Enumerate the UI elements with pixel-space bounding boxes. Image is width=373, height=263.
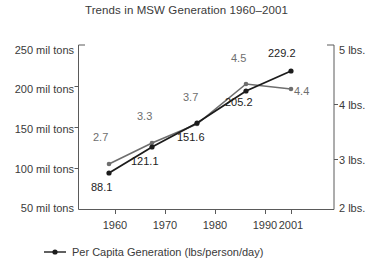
data-label-tons-1960: 88.1 xyxy=(91,181,112,193)
y-right-ticks xyxy=(334,105,338,160)
data-label-per-capita-1970: 3.3 xyxy=(137,110,152,122)
data-point-tons-1970 xyxy=(149,144,154,149)
axis-frame xyxy=(79,45,335,210)
chart-legend: Per Capita Generation (lbs/person/day) xyxy=(44,244,263,260)
legend-label-per-capita: Per Capita Generation (lbs/person/day) xyxy=(72,246,263,258)
data-point-tons-2001 xyxy=(288,68,293,73)
data-point-tons-1960 xyxy=(106,170,111,175)
data-label-tons-2001: 229.2 xyxy=(268,47,296,59)
data-label-per-capita-2001: 4.4 xyxy=(294,85,309,97)
data-point-tons-1980 xyxy=(194,120,199,125)
chart-figure: Trends in MSW Generation 1960–2001 250 m… xyxy=(0,0,373,263)
data-point-per-capita-1990 xyxy=(244,82,249,87)
data-label-per-capita-1960: 2.7 xyxy=(93,131,108,143)
data-point-tons-1990 xyxy=(243,88,248,93)
data-label-per-capita-1980: 3.7 xyxy=(183,91,198,103)
data-point-per-capita-1960 xyxy=(107,162,112,167)
legend-marker-per-capita xyxy=(44,247,66,257)
x-ticks xyxy=(116,210,292,215)
series-per-capita-generation xyxy=(107,82,294,167)
data-label-tons-1980: 151.6 xyxy=(177,131,205,143)
data-label-per-capita-1990: 4.5 xyxy=(231,52,246,64)
data-label-tons-1990: 205.2 xyxy=(225,96,253,108)
data-label-tons-1970: 121.1 xyxy=(131,155,159,167)
data-point-per-capita-2001 xyxy=(289,87,294,92)
y-left-ticks xyxy=(75,87,79,169)
